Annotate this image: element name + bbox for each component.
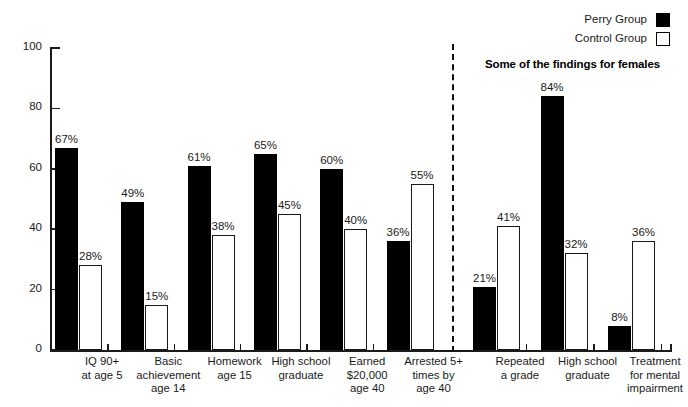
y-axis-line [50,48,52,351]
bar-value-perry-1: 49% [113,187,153,199]
y-axis-tick-label-80: 80 [6,100,42,112]
legend-item-control-group: Control Group [500,29,670,48]
bar-perry-8 [608,326,631,350]
y-axis-tick-label-40: 40 [6,221,42,233]
y-axis-tick-label-60: 60 [6,161,42,173]
bar-value-control-6: 41% [489,211,529,223]
bar-perry-7 [541,96,564,350]
y-axis-tick-label-20: 20 [6,282,42,294]
bar-value-control-2: 38% [203,220,243,232]
bar-value-control-3: 45% [269,199,309,211]
bar-value-control-1: 15% [137,290,177,302]
legend-label-control-group: Control Group [575,29,647,48]
bar-value-control-7: 32% [556,238,596,250]
x-axis-group-tick-4 [373,344,375,351]
x-axis-end-tick [670,344,672,351]
bar-value-control-4: 40% [336,214,376,226]
bar-value-perry-7: 84% [532,81,572,93]
y-axis-tick-label-100: 100 [6,40,42,52]
bar-control-1 [145,305,168,350]
y-axis-tick-label-0: 0 [6,342,42,354]
bar-value-perry-3: 65% [245,139,285,151]
y-axis-tick-100 [50,47,60,49]
bar-value-control-8: 36% [624,226,664,238]
legend-label-perry-group: Perry Group [584,10,647,29]
x-axis-group-tick-8 [661,344,663,351]
x-axis-group-tick-2 [240,344,242,351]
bar-perry-4 [320,169,343,350]
x-axis-line [50,350,672,352]
section-title: Some of the findings for females [470,58,675,70]
category-label-8: Treatmentfor mentalimpairment [613,355,688,396]
bar-control-4 [344,229,367,350]
panel-divider [452,44,454,352]
bar-control-5 [411,184,434,350]
bar-perry-1 [121,202,144,350]
x-axis-group-tick-6 [526,344,528,351]
bar-value-control-0: 28% [71,250,111,262]
bar-value-perry-4: 60% [312,154,352,166]
bar-perry-6 [473,287,496,350]
bar-perry-5 [387,241,410,350]
y-axis-tick-80 [50,108,60,110]
bar-perry-0 [55,148,78,350]
bar-value-control-5: 55% [402,169,442,181]
bar-control-2 [212,235,235,350]
bar-value-perry-2: 61% [179,151,219,163]
x-axis-group-tick-1 [174,344,176,351]
legend-swatch-hollow-icon [656,32,670,46]
legend-swatch-filled-icon [656,13,670,27]
bar-control-0 [79,265,102,350]
bar-control-3 [278,214,301,350]
bar-control-8 [632,241,655,350]
x-axis-group-tick-0 [107,344,109,351]
bar-control-6 [497,226,520,350]
category-label-5: Arrested 5+times byage 40 [392,355,476,396]
bar-control-7 [565,253,588,350]
bar-value-perry-0: 67% [47,133,87,145]
x-axis-group-tick-7 [593,344,595,351]
bar-perry-3 [254,154,277,350]
bar-perry-2 [188,166,211,350]
x-axis-group-tick-3 [306,344,308,351]
legend-item-perry-group: Perry Group [500,10,670,29]
chart-legend: Perry Group Control Group [500,10,670,48]
